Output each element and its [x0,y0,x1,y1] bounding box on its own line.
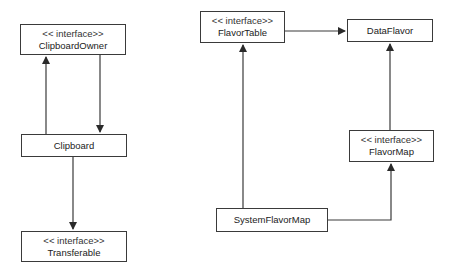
class-name: SystemFlavorMap [234,214,311,226]
stereotype-label: << interface>> [361,134,422,146]
class-box-systemflavormap[interactable]: SystemFlavorMap [216,208,328,232]
edge-systemflavormap-to-flavormap [328,164,391,220]
class-box-transferable[interactable]: << interface>> Transferable [21,231,127,262]
class-box-flavortable[interactable]: << interface>> FlavorTable [200,11,285,43]
uml-diagram-canvas: << interface>> ClipboardOwner Clipboard … [0,0,452,274]
class-box-clipboard[interactable]: Clipboard [21,134,127,157]
stereotype-label: << interface>> [43,235,104,247]
class-name: Transferable [48,247,101,259]
class-name: ClipboardOwner [39,40,108,52]
class-name: DataFlavor [367,25,413,37]
class-box-flavormap[interactable]: << interface>> FlavorMap [349,130,434,162]
class-name: FlavorMap [369,146,414,158]
stereotype-label: << interface>> [212,15,273,27]
class-name: Clipboard [54,140,95,152]
stereotype-label: << interface>> [42,28,103,40]
class-box-dataflavor[interactable]: DataFlavor [347,19,433,42]
class-box-clipboardowner[interactable]: << interface>> ClipboardOwner [20,24,126,55]
class-name: FlavorTable [218,27,267,39]
